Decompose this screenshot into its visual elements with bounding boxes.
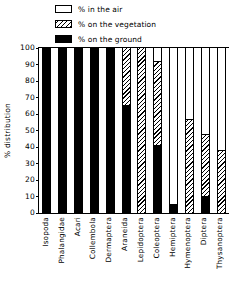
segment-vegetation [218, 151, 225, 213]
segment-vegetation [154, 62, 161, 145]
segment-vegetation [202, 135, 209, 195]
y-axis-label: % distribution [2, 48, 13, 213]
x-label-slot: Phalangidae [54, 215, 70, 287]
bar-slot [71, 48, 87, 213]
segment-vegetation [123, 48, 130, 105]
x-label-slot: Araneida [117, 215, 133, 287]
stacked-bar[interactable] [42, 48, 51, 213]
y-tick-label: 80 [25, 77, 35, 85]
y-tick: 10 [25, 193, 39, 201]
y-tick-label: 0 [30, 209, 35, 217]
bar-slot [166, 48, 182, 213]
y-tick-label: 10 [25, 193, 35, 201]
x-label-slot: Hemiptera [165, 215, 181, 287]
y-tick: 20 [25, 176, 39, 184]
y-tick: 60 [25, 110, 39, 118]
y-tick-label: 90 [25, 61, 35, 69]
x-label-slot: Thysanoptera [212, 215, 228, 287]
stacked-bar[interactable] [201, 48, 210, 213]
segment-air [170, 48, 177, 204]
segment-air [218, 48, 225, 150]
x-axis-tick-label: Dermaptera [105, 217, 113, 263]
segment-ground [75, 48, 82, 213]
y-tick-label: 20 [25, 176, 35, 184]
bar-slot [86, 48, 102, 213]
bar-slot [118, 48, 134, 213]
x-axis-tick-label: Hymenoptera [184, 217, 192, 269]
bar-slot [150, 48, 166, 213]
legend-item-air: % in the air [55, 3, 205, 15]
segment-air [202, 48, 209, 134]
x-axis-tick-label: Thysanoptera [216, 217, 224, 269]
y-tick: 30 [25, 160, 39, 168]
legend-item-ground: % on the ground [55, 33, 205, 45]
legend-label-vegetation: % on the vegetation [78, 20, 156, 29]
x-axis-tick-label: Acari [74, 217, 82, 236]
stacked-bar[interactable] [106, 48, 115, 213]
x-label-slot: Lepidoptera [133, 215, 149, 287]
bar-slot [197, 48, 213, 213]
legend-label-ground: % on the ground [78, 35, 142, 44]
bar-slot [55, 48, 71, 213]
x-axis-tick-label: Diptera [200, 217, 208, 245]
y-tick: 40 [25, 143, 39, 151]
y-tick-label: 60 [25, 110, 35, 118]
segment-air [154, 48, 161, 61]
segment-ground [59, 48, 66, 213]
stacked-bar[interactable] [185, 48, 194, 213]
plot-area: 1009080706050403020100 [38, 48, 229, 214]
chart-legend: % in the air % on the vegetation % on th… [55, 3, 205, 48]
y-tick-label: 40 [25, 143, 35, 151]
x-label-slot: Hymenoptera [180, 215, 196, 287]
y-tick-label: 50 [25, 127, 35, 135]
y-tick: 70 [25, 94, 39, 102]
x-axis-tick-label: Hemiptera [169, 217, 177, 257]
bar-slot [39, 48, 55, 213]
segment-ground [202, 197, 209, 213]
stacked-bar[interactable] [58, 48, 67, 213]
segment-ground [123, 106, 130, 213]
bars-container [39, 48, 229, 213]
x-label-slot: Dermaptera [101, 215, 117, 287]
x-label-slot: Coleoptera [149, 215, 165, 287]
hatched-box-icon [55, 20, 72, 28]
y-tick: 100 [20, 44, 39, 52]
y-tick: 90 [25, 61, 39, 69]
legend-label-air: % in the air [78, 5, 122, 14]
empty-box-icon [55, 5, 72, 13]
stacked-bar[interactable] [217, 48, 226, 213]
stacked-bar[interactable] [153, 48, 162, 213]
bar-slot [134, 48, 150, 213]
segment-ground [154, 146, 161, 213]
stacked-bar[interactable] [122, 48, 131, 213]
x-label-slot: Diptera [196, 215, 212, 287]
y-tick: 50 [25, 127, 39, 135]
bar-slot [102, 48, 118, 213]
segment-ground [43, 48, 50, 213]
y-tick-label: 100 [20, 44, 35, 52]
segment-ground [170, 205, 177, 213]
segment-vegetation [186, 120, 193, 213]
segment-air [186, 48, 193, 119]
stacked-bar-chart: % in the air % on the vegetation % on th… [0, 0, 247, 288]
bar-slot [181, 48, 197, 213]
legend-item-vegetation: % on the vegetation [55, 18, 205, 30]
x-axis-labels: IsopodaPhalangidaeAcariCollembolaDermapt… [38, 215, 228, 287]
stacked-bar[interactable] [169, 48, 178, 213]
x-axis-tick-label: Lepidoptera [137, 217, 145, 262]
x-axis-tick-label: Isopoda [42, 217, 50, 247]
stacked-bar[interactable] [74, 48, 83, 213]
x-label-slot: Acari [70, 215, 86, 287]
x-axis-tick-label: Collembola [89, 217, 97, 259]
y-tick-label: 30 [25, 160, 35, 168]
y-tick: 80 [25, 77, 39, 85]
x-label-slot: Isopoda [38, 215, 54, 287]
x-label-slot: Collembola [85, 215, 101, 287]
stacked-bar[interactable] [90, 48, 99, 213]
y-tick-label: 70 [25, 94, 35, 102]
x-axis-tick-label: Coleoptera [153, 217, 161, 259]
stacked-bar[interactable] [137, 48, 146, 213]
x-axis-tick-label: Araneida [121, 217, 129, 251]
segment-vegetation [138, 48, 145, 213]
segment-ground [91, 48, 98, 213]
